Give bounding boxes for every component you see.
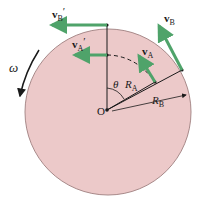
diagram-svg: ω vB′ vA′ vA vB θ RA RB O [0, 0, 199, 203]
label-omega: ω [9, 60, 18, 75]
label-vB-prime: vB′ [52, 5, 65, 23]
point-O [105, 108, 109, 112]
label-vB: vB [164, 12, 175, 27]
label-theta: θ [113, 78, 119, 90]
label-origin: O [97, 105, 105, 117]
rotating-disk-diagram: ω vB′ vA′ vA vB θ RA RB O [0, 0, 199, 203]
